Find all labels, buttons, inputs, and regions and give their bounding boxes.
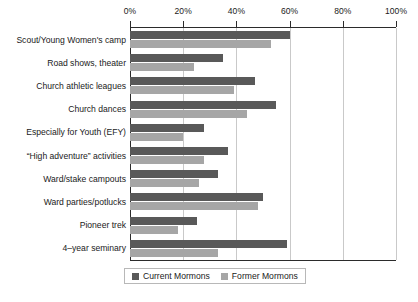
bar-former-mormons [130, 63, 194, 71]
x-axis-tick-label: 100% [385, 6, 407, 16]
bar-current-mormons [130, 147, 228, 155]
x-axis-tick-mark [343, 21, 344, 27]
bar-group [130, 74, 396, 97]
bar-group [130, 237, 396, 260]
category-label: Especially for Youth (EFY) [0, 127, 126, 137]
plot-area [130, 28, 396, 260]
bar-former-mormons [130, 226, 178, 234]
legend-label: Current Mormons [143, 271, 210, 281]
bar-current-mormons [130, 124, 204, 132]
chart-legend: Current MormonsFormer Mormons [124, 268, 306, 284]
bar-group [130, 214, 396, 237]
bar-group [130, 121, 396, 144]
category-label: 4–year seminary [0, 243, 126, 253]
bar-current-mormons [130, 31, 290, 39]
category-label: Church athletic leagues [0, 81, 126, 91]
bar-group [130, 98, 396, 121]
category-label: Ward parties/potlucks [0, 197, 126, 207]
bar-group [130, 51, 396, 74]
category-label: Road shows, theater [0, 58, 126, 68]
x-axis-tick-mark [290, 21, 291, 27]
bar-current-mormons [130, 217, 197, 225]
bar-former-mormons [130, 133, 183, 141]
bar-former-mormons [130, 86, 234, 94]
category-label: Scout/Young Women's camp [0, 35, 126, 45]
x-axis-tick-mark [236, 21, 237, 27]
bar-group [130, 28, 396, 51]
bar-group [130, 144, 396, 167]
bar-current-mormons [130, 170, 218, 178]
bar-current-mormons [130, 240, 287, 248]
legend-swatch-icon [132, 273, 139, 280]
legend-entry: Former Mormons [221, 271, 298, 281]
x-axis-bottom-line [130, 260, 396, 261]
gridline [396, 28, 397, 260]
x-axis-tick-label: 40% [228, 6, 245, 16]
bar-current-mormons [130, 193, 263, 201]
legend-swatch-icon [221, 273, 228, 280]
bar-current-mormons [130, 54, 223, 62]
bar-former-mormons [130, 110, 247, 118]
bar-group [130, 167, 396, 190]
x-axis-tick-label: 80% [334, 6, 351, 16]
x-axis-tick-label: 0% [124, 6, 137, 16]
category-label: Ward/stake campouts [0, 174, 126, 184]
category-axis-labels: Scout/Young Women's campRoad shows, thea… [0, 28, 126, 260]
bar-current-mormons [130, 101, 276, 109]
category-label: “High adventure” activities [0, 151, 126, 161]
bar-former-mormons [130, 156, 204, 164]
legend-entry: Current Mormons [132, 271, 210, 281]
x-axis-tick-label: 60% [281, 6, 298, 16]
bar-group [130, 190, 396, 213]
x-axis-tick-mark [396, 21, 397, 27]
category-label: Pioneer trek [0, 220, 126, 230]
bar-former-mormons [130, 249, 218, 257]
x-axis-tick-mark [183, 21, 184, 27]
x-axis-tick-mark [130, 21, 131, 27]
legend-label: Former Mormons [232, 271, 298, 281]
bar-current-mormons [130, 77, 255, 85]
bar-former-mormons [130, 202, 258, 210]
bar-former-mormons [130, 40, 271, 48]
bar-former-mormons [130, 179, 199, 187]
category-label: Church dances [0, 104, 126, 114]
x-axis-tick-labels: 0%20%40%60%80%100% [0, 6, 418, 20]
x-axis-tick-label: 20% [175, 6, 192, 16]
bar-chart: 0%20%40%60%80%100% Scout/Young Women's c… [0, 0, 418, 302]
